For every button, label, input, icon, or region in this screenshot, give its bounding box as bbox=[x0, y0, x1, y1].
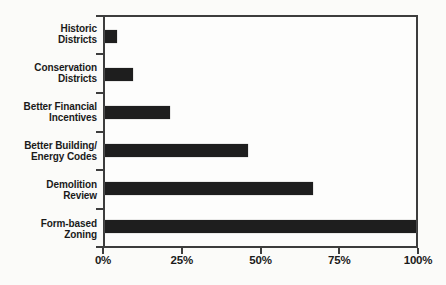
category-label: Better Financial Incentives bbox=[0, 93, 97, 132]
category-label: Historic Districts bbox=[0, 15, 97, 54]
category-label: Better Building/ Energy Codes bbox=[0, 132, 97, 171]
value-tick-label: 0% bbox=[95, 254, 111, 266]
value-tick-label: 25% bbox=[171, 254, 193, 266]
category-tick bbox=[96, 131, 103, 133]
bar-row bbox=[105, 170, 416, 208]
bar bbox=[105, 220, 416, 233]
bar-row bbox=[105, 93, 416, 131]
category-tick bbox=[96, 53, 103, 55]
category-tick bbox=[96, 15, 103, 17]
category-tick bbox=[96, 92, 103, 94]
category-tick bbox=[96, 208, 103, 210]
bar-row bbox=[105, 208, 416, 246]
plot-area bbox=[103, 15, 418, 248]
bar bbox=[105, 30, 117, 43]
bar-row bbox=[105, 17, 416, 55]
bar-chart: Historic DistrictsConservation Districts… bbox=[0, 0, 446, 285]
category-label: Form-based Zoning bbox=[0, 209, 97, 248]
bar bbox=[105, 68, 133, 81]
bar bbox=[105, 144, 248, 157]
category-tick bbox=[96, 169, 103, 171]
value-tick-label: 100% bbox=[404, 254, 433, 266]
category-label: Demolition Review bbox=[0, 170, 97, 209]
bar-row bbox=[105, 55, 416, 93]
bar-row bbox=[105, 132, 416, 170]
value-tick-label: 50% bbox=[249, 254, 271, 266]
category-label: Conservation Districts bbox=[0, 54, 97, 93]
bar bbox=[105, 106, 170, 119]
bar bbox=[105, 182, 313, 195]
value-tick-label: 75% bbox=[328, 254, 350, 266]
